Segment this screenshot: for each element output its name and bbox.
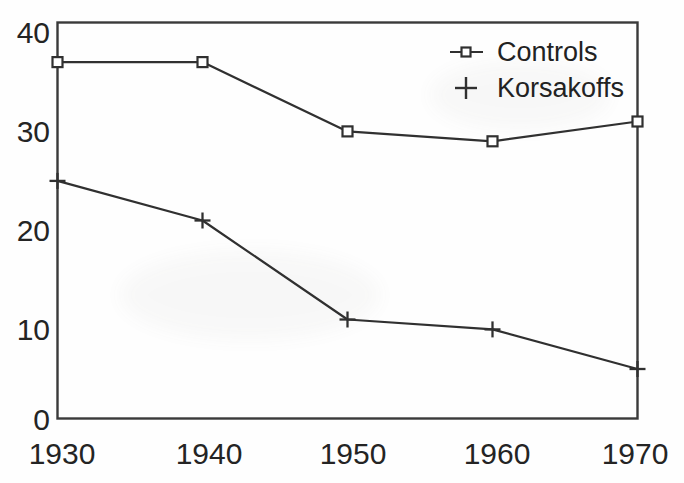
data-point — [630, 361, 646, 377]
marker-open-square — [633, 117, 643, 127]
data-point — [195, 213, 211, 229]
data-point — [198, 57, 208, 67]
page-caption-cutoff — [0, 459, 684, 483]
marker-open-square — [488, 136, 498, 146]
y-tick-label-30: 30 — [17, 115, 50, 149]
data-point — [340, 312, 356, 328]
marker-open-square — [343, 126, 353, 136]
marker-open-square — [53, 57, 63, 67]
data-point — [50, 173, 66, 189]
chart-figure: 40 30 20 10 0 1930 1940 1950 1960 1970 C… — [0, 0, 684, 483]
legend-marker-controls — [450, 48, 483, 57]
y-tick-label-20: 20 — [17, 214, 50, 248]
legend-label-korsakoffs: Korsakoffs — [497, 73, 624, 104]
legend-label-controls: Controls — [497, 37, 598, 68]
marker-open-square — [198, 57, 208, 67]
data-point — [633, 117, 643, 127]
y-tick-label-0: 0 — [33, 403, 50, 437]
series-korsakoffs — [50, 173, 646, 377]
data-point — [53, 57, 63, 67]
y-tick-label-40: 40 — [17, 16, 50, 50]
series-line — [58, 181, 638, 369]
data-point — [343, 126, 353, 136]
data-point — [488, 136, 498, 146]
legend-marker-korsakoffs — [455, 77, 477, 99]
legend-markers — [450, 48, 483, 100]
data-point — [485, 321, 501, 337]
y-tick-label-10: 10 — [17, 313, 50, 347]
series-layer — [50, 57, 646, 377]
